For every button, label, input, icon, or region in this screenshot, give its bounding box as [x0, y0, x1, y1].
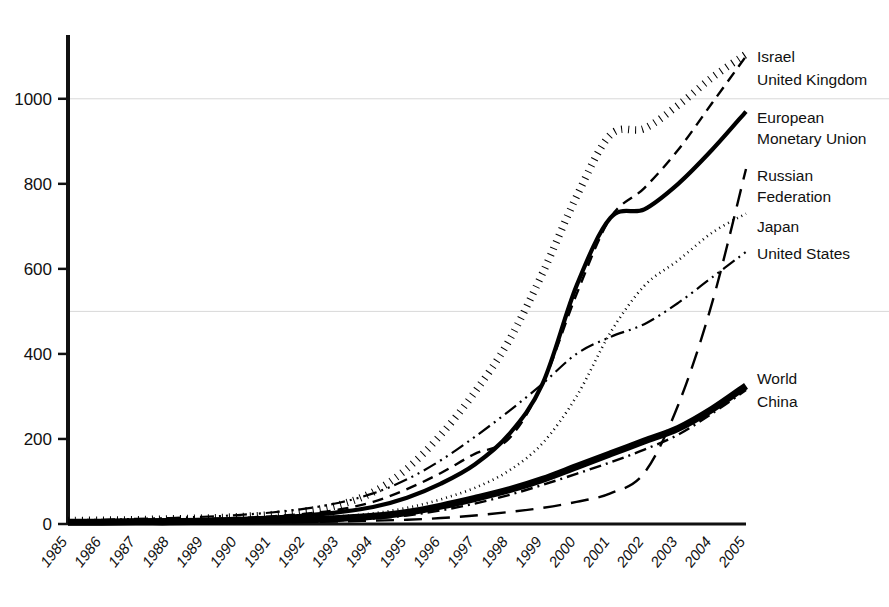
x-axis-tick-label: 2000: [544, 533, 579, 571]
series-label-federation: Federation: [757, 188, 831, 205]
data-series-group: [68, 54, 746, 523]
series-label-united-states: United States: [757, 245, 850, 262]
series-line-united-kingdom: [68, 56, 746, 521]
series-line-european-monetary-union: [68, 112, 746, 522]
x-axis-tick-label: 1994: [342, 533, 376, 570]
x-axis-tick-label: 1988: [138, 533, 172, 570]
x-axis-tick-label: 1990: [206, 533, 240, 570]
x-axis-tick-label: 2001: [578, 533, 613, 571]
series-line-japan: [68, 214, 746, 522]
y-axis-tick-label: 1000: [14, 90, 52, 109]
series-line-united-states: [68, 252, 746, 520]
series-label-monetary-union: Monetary Union: [757, 130, 866, 147]
y-axis-tick-label: 200: [24, 430, 52, 449]
x-axis-tick-label: 1989: [172, 533, 206, 570]
x-axis-tick-labels: 1985198619871988198919901991199219931994…: [36, 533, 748, 571]
series-label-world: World: [757, 370, 797, 387]
series-label-russian: Russian: [757, 167, 813, 184]
series-line-world: [68, 386, 746, 523]
x-axis-tick-label: 2003: [646, 533, 681, 571]
x-axis-tick-label: 2004: [680, 533, 715, 571]
series-line-china: [68, 390, 746, 523]
chart-container: 02004006008001000 1985198619871988198919…: [0, 0, 889, 607]
series-line-russian-federation: [68, 169, 746, 524]
x-axis-tick-label: 1992: [274, 533, 308, 570]
series-label-japan: Japan: [757, 218, 799, 235]
series-label-china: China: [757, 393, 798, 410]
y-axis-tick-label: 800: [24, 175, 52, 194]
x-axis-tick-label: 1986: [70, 533, 104, 570]
series-label-european: European: [757, 109, 824, 126]
series-label-israel: Israel: [757, 48, 795, 65]
y-axis-tick-label: 0: [43, 515, 52, 534]
x-axis-tick-label: 1996: [409, 533, 443, 570]
y-axis-tick-label: 600: [24, 260, 52, 279]
x-axis-tick-label: 1998: [477, 533, 511, 570]
x-axis-tick-label: 1985: [36, 533, 70, 570]
y-axis-tick-label: 400: [24, 345, 52, 364]
x-axis-tick-label: 1997: [443, 533, 477, 570]
x-axis-tick-label: 2005: [714, 533, 749, 571]
series-label-united-kingdom: United Kingdom: [757, 71, 867, 88]
y-axis-tick-labels: 02004006008001000: [14, 90, 52, 534]
x-axis-tick-label: 1999: [511, 533, 545, 570]
x-axis-tick-label: 2002: [612, 533, 647, 571]
series-labels-group: IsraelUnited KingdomEuropeanMonetary Uni…: [757, 48, 867, 410]
x-axis-tick-label: 1987: [104, 533, 138, 570]
x-axis-tick-label: 1993: [308, 533, 342, 570]
line-chart-plot: 02004006008001000 1985198619871988198919…: [0, 0, 889, 607]
x-axis-tick-label: 1995: [375, 533, 409, 570]
x-axis-tick-label: 1991: [240, 533, 274, 570]
